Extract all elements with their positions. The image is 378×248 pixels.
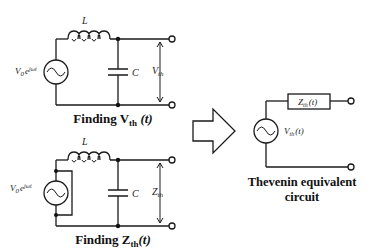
- vth-label: Vth: [152, 65, 164, 78]
- bottom-circuit: L C V0ejωt Zth Finding Zth(t): [10, 136, 175, 248]
- ac-source-icon: [44, 181, 68, 205]
- inductor-label: L: [81, 136, 88, 147]
- top-circuit-title: Finding Vth (t): [73, 111, 152, 128]
- ac-source-icon: [254, 119, 278, 143]
- capacitor-icon: [108, 39, 128, 105]
- zth-label: Zth(t): [298, 97, 317, 108]
- terminal-b: [169, 102, 175, 108]
- terminal-a: [348, 98, 354, 104]
- ac-source-icon: [44, 60, 68, 84]
- source-label: V0ejωt: [15, 66, 37, 78]
- right-arrow-icon: [193, 109, 235, 153]
- equivalent-title-line1: Thevenin equivalent: [248, 175, 358, 189]
- inductor-icon: [68, 31, 110, 41]
- terminal-a: [169, 36, 175, 42]
- inductor-label: L: [81, 15, 88, 26]
- capacitor-label: C: [132, 188, 139, 199]
- terminal-b: [169, 223, 175, 229]
- short-circuit-wire: [54, 169, 72, 217]
- thevenin-circuit: Zth(t) Vth(t) Thevenin equivalent circui…: [248, 94, 358, 204]
- vth-label: Vth(t): [284, 126, 304, 137]
- circuit-diagram: L C V0ejωt Vth Finding Vth (t): [0, 0, 378, 248]
- bottom-circuit-title: Finding Zth(t): [75, 232, 151, 248]
- inductor-icon: [68, 152, 110, 162]
- zth-label: Zth: [152, 186, 164, 199]
- top-circuit: L C V0ejωt Vth Finding Vth (t): [15, 15, 175, 128]
- terminal-b: [348, 164, 354, 170]
- equivalent-title-line2: circuit: [285, 190, 320, 204]
- junction-dot: [116, 224, 120, 228]
- source-label: V0ejωt: [10, 183, 32, 195]
- capacitor-label: C: [132, 67, 139, 78]
- terminal-a: [169, 157, 175, 163]
- capacitor-icon: [108, 160, 128, 226]
- junction-dot: [116, 103, 120, 107]
